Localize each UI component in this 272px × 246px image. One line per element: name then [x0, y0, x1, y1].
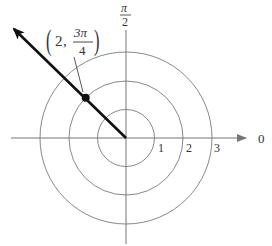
vertical-axis-label-num: π [121, 1, 128, 15]
point-label-r: 2 [55, 33, 63, 49]
point-2-3pi4 [82, 94, 90, 102]
point-label-comma: , [63, 33, 67, 49]
ring-label-3: 3 [214, 141, 220, 155]
ring-label-2: 2 [186, 141, 192, 155]
point-label-close-paren: ) [94, 23, 99, 58]
polar-axis-label: 0 [258, 131, 265, 146]
polar-diagram: ( 2 , 3π 4 ) π 2 1 2 3 0 [0, 0, 272, 246]
point-label-open-paren: ( [46, 23, 51, 58]
point-label-theta-num: 3π [73, 25, 88, 40]
label-leader-line [74, 57, 83, 92]
vertical-axis-label-den: 2 [122, 15, 128, 29]
ring-label-1: 1 [158, 141, 164, 155]
point-label-theta-den: 4 [79, 43, 86, 58]
